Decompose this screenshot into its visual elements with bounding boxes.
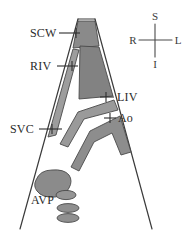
label-riv: RIV [30, 59, 51, 73]
orientation-compass: S R L I [129, 10, 181, 70]
anatomical-diagram: SCW RIV SVC LIV Ao AVP S R L I [0, 0, 184, 233]
label-avp: AVP [31, 193, 54, 207]
compass-label-left: L [175, 34, 182, 46]
figure-root: SCW RIV SVC LIV Ao AVP S R L I [0, 0, 184, 233]
compass-label-inferior: I [153, 58, 157, 70]
label-ao: Ao [118, 111, 133, 125]
vessel-avp-node-1 [56, 190, 76, 199]
vessel-central-upper-wedge [79, 46, 113, 99]
compass-label-right: R [129, 34, 137, 46]
vessel-scw [73, 21, 99, 48]
vessel-avp-node-2 [57, 204, 79, 213]
compass-label-superior: S [152, 10, 158, 22]
label-scw: SCW [30, 26, 57, 40]
vessel-avp-node-3 [57, 214, 79, 223]
label-svc: SVC [10, 122, 34, 136]
label-liv: LIV [117, 90, 138, 104]
